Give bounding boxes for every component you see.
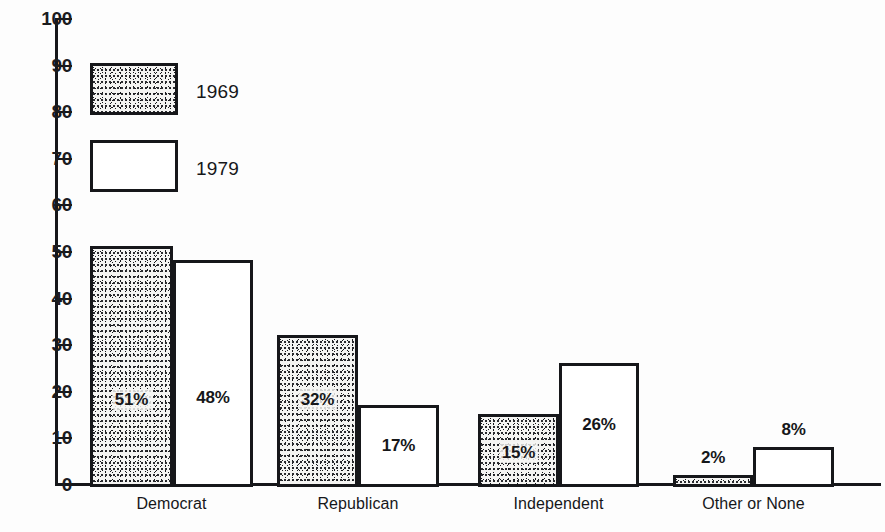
y-tick-label: 90 — [26, 56, 72, 75]
bar-value-label: 48% — [196, 389, 229, 406]
legend-label-1969: 1969 — [196, 82, 239, 101]
bar-value-label: 51% — [112, 389, 151, 410]
y-tick-label: 10 — [26, 428, 72, 447]
bar-value-label: 26% — [582, 416, 615, 433]
y-tick-label: 50 — [26, 242, 72, 261]
bar-1969-democrat — [90, 246, 173, 487]
bar-value-label: 17% — [382, 437, 415, 454]
legend-swatch-1979 — [90, 140, 178, 192]
bar-1969-republican — [277, 335, 358, 487]
y-tick-label: 60 — [26, 195, 72, 214]
bar-value-label: 8% — [781, 421, 805, 438]
y-tick-label: 30 — [26, 335, 72, 354]
y-tick-label: 100 — [26, 9, 72, 28]
y-tick-label: 70 — [26, 149, 72, 168]
bar-value-label: 15% — [499, 442, 538, 463]
bar-value-label: 2% — [701, 449, 725, 466]
bar-chart: 0102030405060708090100 1969 1979 51%48%3… — [0, 0, 885, 532]
y-tick-label: 0 — [26, 475, 72, 494]
bar-1969-other-or-none — [673, 475, 753, 487]
category-label-other-or-none: Other or None — [644, 496, 864, 512]
y-tick-label: 80 — [26, 102, 72, 121]
bar-1979-democrat — [173, 260, 253, 487]
bar-1979-other-or-none — [753, 447, 834, 487]
y-tick-label: 20 — [26, 382, 72, 401]
y-tick-label: 40 — [26, 289, 72, 308]
category-label-independent: Independent — [449, 496, 669, 512]
legend-label-1979: 1979 — [196, 159, 239, 178]
bar-value-label: 32% — [298, 389, 337, 410]
legend-swatch-1969 — [90, 63, 178, 115]
category-label-republican: Republican — [248, 496, 468, 512]
